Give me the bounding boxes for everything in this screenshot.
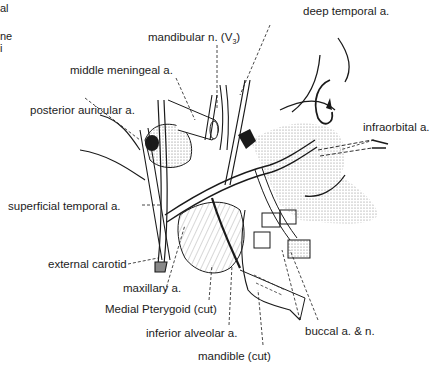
label-posterior-auricular-artery: posterior auricular a. (30, 104, 135, 117)
label-maxillary-artery: maxillary a. (123, 282, 181, 295)
label-buccal-artery-nerve: buccal a. & n. (305, 325, 375, 338)
label-medial-pterygoid: Medial Pterygoid (cut) (105, 303, 217, 316)
skull-region (250, 38, 378, 224)
label-mandible-cut: mandible (cut) (198, 350, 271, 363)
medial-pterygoid-muscle (178, 202, 244, 273)
label-middle-meningeal-artery: middle meningeal a. (70, 64, 173, 77)
mandible (240, 210, 310, 320)
label-infraorbital-artery: infraorbital a. (363, 121, 429, 134)
label-deep-temporal-artery: deep temporal a. (303, 5, 389, 18)
label-superficial-temporal-artery: superficial temporal a. (8, 200, 121, 213)
label-external-carotid: external carotid (48, 258, 127, 271)
label-inferior-alveolar-artery: inferior alveolar a. (146, 327, 237, 340)
anatomy-illustration (0, 0, 435, 365)
label-mandibular-nerve: mandibular n. (V3) (148, 31, 240, 48)
